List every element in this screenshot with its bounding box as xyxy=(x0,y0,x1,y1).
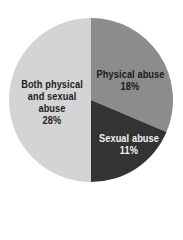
label-both-abuse: Both physical and sexual abuse 28% xyxy=(17,78,87,126)
label-physical-abuse-value: 18% xyxy=(97,80,164,92)
label-physical-abuse-line-1: Physical abuse xyxy=(97,68,164,80)
label-sexual-abuse-value: 11% xyxy=(96,144,161,156)
label-both-abuse-line-2: and sexual xyxy=(17,90,87,102)
label-both-abuse-value: 28% xyxy=(17,114,87,126)
label-sexual-abuse-line-1: Sexual abuse xyxy=(96,132,161,144)
label-sexual-abuse: Sexual abuse 11% xyxy=(96,132,161,156)
label-both-abuse-line-1: Both physical xyxy=(17,78,87,90)
label-physical-abuse: Physical abuse 18% xyxy=(97,68,164,92)
label-both-abuse-line-3: abuse xyxy=(17,102,87,114)
